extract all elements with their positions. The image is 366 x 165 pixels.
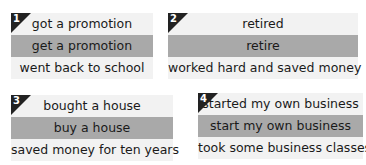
card-1: got a promotion get a promotion went bac…	[11, 13, 153, 79]
card-3: bought a house buy a house saved money f…	[11, 95, 173, 161]
card-1-detail: went back to school	[11, 57, 153, 79]
card-4-past-tense: started my own business	[198, 93, 363, 115]
card-4: started my own business start my own bus…	[198, 93, 363, 159]
card-3-detail: saved money for ten years	[11, 139, 173, 161]
card-4-base-form: start my own business	[198, 115, 363, 137]
card-2-detail: worked hard and saved money	[168, 57, 358, 79]
card-3-past-tense: bought a house	[11, 95, 173, 117]
card-1-base-form: get a promotion	[11, 35, 153, 57]
card-2: retired retire worked hard and saved mon…	[168, 13, 358, 79]
card-1-past-tense: got a promotion	[11, 13, 153, 35]
card-2-base-form: retire	[168, 35, 358, 57]
card-2-past-tense: retired	[168, 13, 358, 35]
card-2-number: 2	[170, 13, 177, 25]
card-4-number: 4	[200, 93, 207, 105]
card-4-detail: took some business classes	[198, 137, 363, 159]
card-3-number: 3	[13, 95, 20, 107]
card-1-number: 1	[13, 13, 20, 25]
card-3-base-form: buy a house	[11, 117, 173, 139]
